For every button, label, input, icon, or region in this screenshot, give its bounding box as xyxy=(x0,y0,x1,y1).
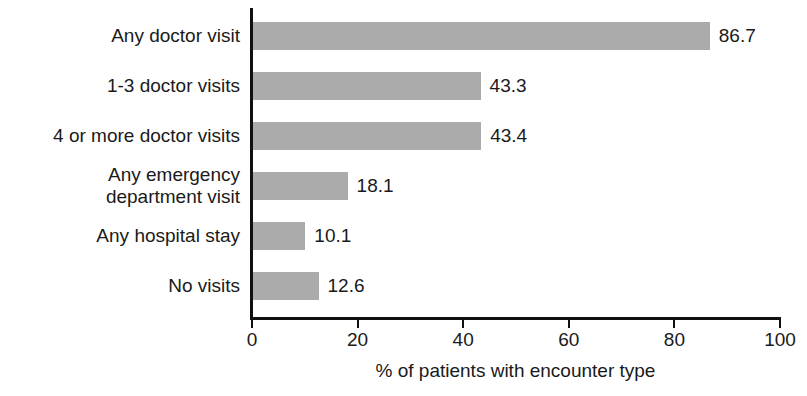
x-axis-tick-label: 80 xyxy=(664,329,685,351)
category-label: 1-3 doctor visits xyxy=(107,75,240,97)
x-axis-tick xyxy=(673,320,675,328)
bar-value-label: 10.1 xyxy=(314,225,351,247)
bar-value-label: 12.6 xyxy=(328,275,365,297)
category-label: Any emergency department visit xyxy=(106,164,240,208)
bar-value-label: 86.7 xyxy=(719,25,756,47)
x-axis-tick xyxy=(357,320,359,328)
category-label: Any doctor visit xyxy=(111,25,240,47)
bar xyxy=(252,72,481,100)
bar-value-label: 43.3 xyxy=(490,75,527,97)
x-axis-tick xyxy=(779,320,781,328)
category-label: Any hospital stay xyxy=(96,225,240,247)
x-axis-tick xyxy=(462,320,464,328)
x-axis-tick xyxy=(251,320,253,328)
bar xyxy=(252,122,481,150)
bar xyxy=(252,22,710,50)
x-axis-tick-label: 100 xyxy=(764,329,796,351)
bar xyxy=(252,222,305,250)
bar xyxy=(252,272,319,300)
x-axis-tick-label: 0 xyxy=(247,329,258,351)
category-label: 4 or more doctor visits xyxy=(53,125,240,147)
y-axis-line xyxy=(250,8,253,319)
x-axis-title: % of patients with encounter type xyxy=(250,360,781,382)
bar-value-label: 43.4 xyxy=(490,125,527,147)
bar xyxy=(252,172,348,200)
x-axis-tick xyxy=(568,320,570,328)
x-axis-line xyxy=(250,317,781,320)
bar-chart: Any doctor visit 1-3 doctor visits 4 or … xyxy=(0,0,807,396)
category-label: No visits xyxy=(168,275,240,297)
x-axis-tick-label: 40 xyxy=(453,329,474,351)
x-axis-tick-label: 60 xyxy=(558,329,579,351)
x-axis-tick-label: 20 xyxy=(347,329,368,351)
bar-value-label: 18.1 xyxy=(357,175,394,197)
